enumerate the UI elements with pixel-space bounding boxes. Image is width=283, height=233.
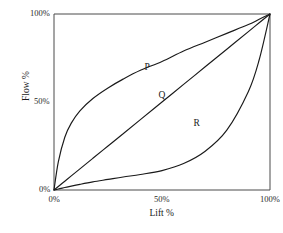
plot-area <box>0 0 283 233</box>
x-tick-label-50: 50% <box>154 194 170 204</box>
y-tick-label-0: 0% <box>39 184 50 194</box>
y-axis-title-wrap: Flow % <box>21 56 37 116</box>
curve-label-r: R <box>194 118 200 128</box>
x-tick-label-100: 100% <box>260 194 280 204</box>
x-tick-label-0: 0% <box>49 194 60 204</box>
curves-group <box>54 14 270 190</box>
x-axis-title: Lift % <box>150 208 175 218</box>
flow-lift-characteristic-chart: 100% 50% 0% 0% 50% 100% Flow % Lift % P … <box>0 0 283 233</box>
curve-label-p: P <box>144 62 149 72</box>
y-axis-title: Flow % <box>21 56 31 116</box>
curve-label-q: Q <box>159 90 166 100</box>
y-tick-label-100: 100% <box>30 8 50 18</box>
curve-q-linear <box>54 14 270 190</box>
